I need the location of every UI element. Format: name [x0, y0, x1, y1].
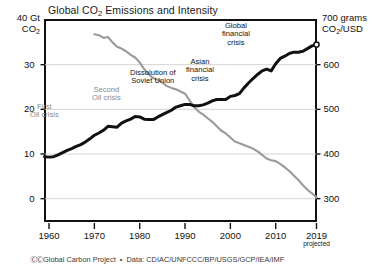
- series-end-marker: [314, 42, 319, 47]
- x-axis-tick-1960: 1960: [29, 230, 69, 241]
- footer-separator: •: [120, 255, 123, 264]
- annotation-second-oil-crisis: SecondOil crisis: [92, 86, 121, 103]
- footer-org: Global Carbon Project: [43, 255, 116, 264]
- annotation-line: crisis: [222, 39, 250, 47]
- series-line-co2-emissions: [45, 45, 317, 158]
- annotation-global-financial-crisis: Globalfinancialcrisis: [222, 22, 250, 47]
- left-axis-tick-30: 30: [11, 59, 35, 70]
- right-axis-tick-600: 600: [324, 59, 358, 70]
- footer-data-sources: Data: CDIAC/UNFCCC/BP/USGS/GCP/IEA/IMF: [127, 255, 285, 264]
- right-axis-tick-500: 500: [324, 103, 358, 114]
- x-axis-projected-note: projected: [297, 240, 337, 247]
- creative-commons-icon: ⒸⒸ: [30, 253, 42, 264]
- x-axis-tick-1990: 1990: [165, 230, 205, 241]
- x-axis-tick-2000: 2000: [210, 230, 250, 241]
- annotation-line: Oil crisis: [30, 111, 59, 119]
- left-axis-tick-10: 10: [11, 148, 35, 159]
- annotation-line: crisis: [186, 75, 214, 83]
- chart-root: Global CO2 Emissions and Intensity 40 Gt…: [0, 0, 389, 278]
- annotation-first-oil-crisis: FirstOil crisis: [30, 103, 59, 120]
- annotation-line: Soviet Union: [130, 77, 176, 85]
- gridlines: [45, 65, 317, 199]
- right-axis-tick-300: 300: [324, 193, 358, 204]
- axis-ticks: [41, 65, 321, 229]
- x-axis-tick-1970: 1970: [74, 230, 114, 241]
- annotation-line: Oil crisis: [92, 94, 121, 102]
- x-axis-tick-2010: 2010: [256, 230, 296, 241]
- x-axis-tick-1980: 1980: [120, 230, 160, 241]
- right-axis-tick-400: 400: [324, 148, 358, 159]
- x-axis-tick-2019: 2019projected: [297, 230, 337, 247]
- annotation-asian-financial-crisis: Asianfinancialcrisis: [186, 58, 214, 83]
- left-axis-tick-0: 0: [11, 193, 35, 204]
- annotation-dissolution-of-soviet-union: Dissolution ofSoviet Union: [130, 69, 176, 86]
- footer-credit: ⒸⒸGlobal Carbon Project • Data: CDIAC/UN…: [30, 253, 284, 264]
